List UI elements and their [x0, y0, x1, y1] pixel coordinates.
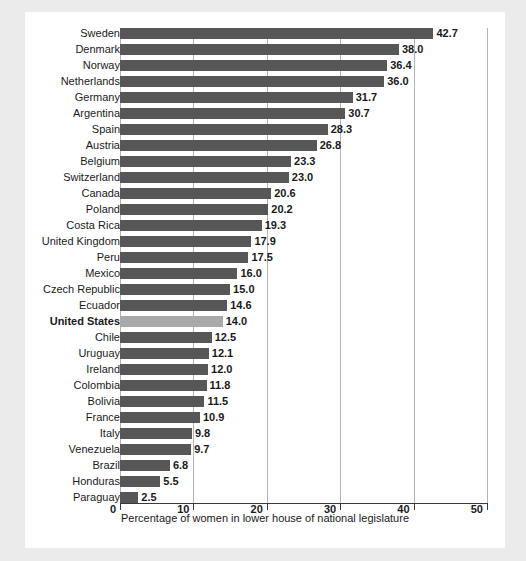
category-label: Italy [0, 428, 120, 439]
category-label: United Kingdom [0, 236, 120, 247]
category-label: Bolivia [0, 396, 120, 407]
bar [120, 332, 212, 343]
category-label: Germany [0, 92, 120, 103]
bar-value-label: 6.8 [173, 460, 188, 471]
bar-value-label: 12.0 [211, 364, 232, 375]
category-label: Netherlands [0, 76, 120, 87]
bar-value-label: 10.9 [203, 412, 224, 423]
bar [120, 92, 353, 103]
bar [120, 252, 248, 263]
bar-value-label: 28.3 [331, 124, 352, 135]
bar [120, 316, 223, 327]
bar [120, 172, 289, 183]
bar-value-label: 20.6 [274, 188, 295, 199]
gridline-50 [487, 28, 488, 503]
bar [120, 124, 328, 135]
bar-value-label: 31.7 [356, 92, 377, 103]
x-tick-50 [487, 503, 488, 510]
bar [120, 380, 207, 391]
category-label: Mexico [0, 268, 120, 279]
category-label: Spain [0, 124, 120, 135]
category-label: France [0, 412, 120, 423]
x-tick-20 [267, 503, 268, 510]
category-label: Norway [0, 60, 120, 71]
category-label: Colombia [0, 380, 120, 391]
bar [120, 60, 387, 71]
bar [120, 364, 208, 375]
bar [120, 444, 191, 455]
bar [120, 492, 138, 503]
bar [120, 204, 268, 215]
bar-value-label: 12.5 [215, 332, 236, 343]
category-label: Denmark [0, 44, 120, 55]
bar-value-label: 9.7 [194, 444, 209, 455]
x-tick-30 [340, 503, 341, 510]
category-label: Belgium [0, 156, 120, 167]
bar-value-label: 23.3 [294, 156, 315, 167]
bar-value-label: 26.8 [320, 140, 341, 151]
bar [120, 76, 384, 87]
category-label: Venezuela [0, 444, 120, 455]
gridline-40 [414, 28, 415, 503]
category-label: Switzerland [0, 172, 120, 183]
bar [120, 220, 262, 231]
bar-value-label: 15.0 [233, 284, 254, 295]
category-label: Uruguay [0, 348, 120, 359]
bar [120, 188, 271, 199]
bar-value-label: 16.0 [240, 268, 261, 279]
bar-value-label: 20.2 [271, 204, 292, 215]
bar-value-label: 42.7 [436, 28, 457, 39]
bar [120, 140, 317, 151]
bar-value-label: 36.0 [387, 76, 408, 87]
category-label: Ireland [0, 364, 120, 375]
bar [120, 412, 200, 423]
x-tick-40 [414, 503, 415, 510]
category-label: Honduras [0, 476, 120, 487]
bar [120, 476, 160, 487]
bar-value-label: 19.3 [265, 220, 286, 231]
bar [120, 28, 433, 39]
bar-value-label: 30.7 [348, 108, 369, 119]
bar-chart: Sweden42.7Denmark38.0Norway36.4Netherlan… [25, 12, 505, 548]
bar [120, 460, 170, 471]
x-tick-0 [120, 503, 121, 510]
x-axis-title: Percentage of women in lower house of na… [25, 512, 505, 525]
category-label: Peru [0, 252, 120, 263]
bar-value-label: 14.0 [226, 316, 247, 327]
bar-value-label: 17.9 [254, 236, 275, 247]
bar-value-label: 38.0 [402, 44, 423, 55]
bar [120, 44, 399, 55]
bar-value-label: 9.8 [195, 428, 210, 439]
bar [120, 428, 192, 439]
bar [120, 236, 251, 247]
category-label: Paraguay [0, 492, 120, 503]
bar-value-label: 5.5 [163, 476, 178, 487]
bar [120, 300, 227, 311]
bar-value-label: 11.8 [210, 380, 231, 391]
bar [120, 348, 209, 359]
bar [120, 396, 204, 407]
category-label: Austria [0, 140, 120, 151]
bar [120, 268, 237, 279]
bar-value-label: 12.1 [212, 348, 233, 359]
bar-value-label: 36.4 [390, 60, 411, 71]
figure-panel: Sweden42.7Denmark38.0Norway36.4Netherlan… [25, 12, 505, 548]
category-label: Poland [0, 204, 120, 215]
bar-value-label: 23.0 [292, 172, 313, 183]
category-label: Canada [0, 188, 120, 199]
category-label: Argentina [0, 108, 120, 119]
category-label: Czech Republic [0, 284, 120, 295]
bar-value-label: 14.6 [230, 300, 251, 311]
bar [120, 108, 345, 119]
bar [120, 284, 230, 295]
bar [120, 156, 291, 167]
category-label: Ecuador [0, 300, 120, 311]
bar-value-label: 11.5 [207, 396, 228, 407]
bar-value-label: 2.5 [141, 492, 156, 503]
category-label: Chile [0, 332, 120, 343]
category-label: Sweden [0, 28, 120, 39]
category-label: Costa Rica [0, 220, 120, 231]
bar-value-label: 17.5 [251, 252, 272, 263]
x-tick-10 [193, 503, 194, 510]
category-label: United States [0, 316, 120, 327]
